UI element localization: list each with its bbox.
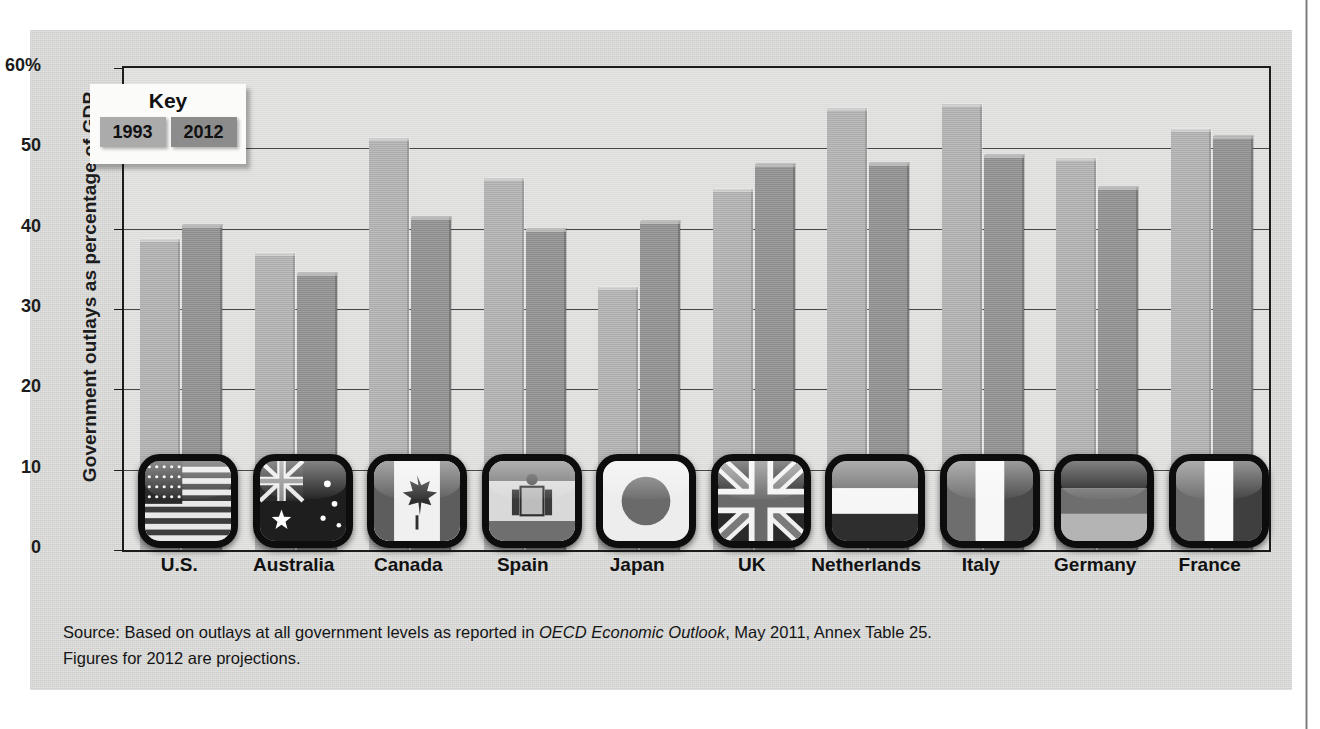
flag-united-kingdom-icon — [711, 454, 811, 548]
flag-image — [489, 461, 575, 541]
source-publication: OECD Economic Outlook — [539, 623, 725, 641]
bar-highlight — [297, 273, 337, 276]
bar-highlight — [369, 138, 409, 141]
flag-germany-icon — [1054, 454, 1154, 548]
y-tick-mark-10 — [114, 470, 124, 471]
x-tick-label-france: France — [1120, 554, 1300, 576]
bar-highlight — [182, 225, 222, 228]
flag-image — [145, 461, 231, 541]
gridline-30 — [124, 309, 1269, 310]
flag-image — [1176, 461, 1262, 541]
bar-highlight — [140, 239, 180, 242]
source-suffix: , May 2011, Annex Table 25. — [725, 623, 932, 641]
bar-highlight — [869, 163, 909, 166]
flag-italy-icon — [940, 454, 1040, 548]
exhibit-panel: Government outlays as percentage of GDP … — [30, 30, 1292, 690]
bar-highlight — [484, 178, 524, 181]
bar-highlight — [713, 189, 753, 192]
gridline-20 — [124, 389, 1269, 390]
source-line-2: Figures for 2012 are projections. — [63, 646, 1213, 672]
bar-highlight — [1056, 158, 1096, 161]
bar-highlight — [411, 217, 451, 220]
gridline-40 — [124, 229, 1269, 230]
legend-swatches: 19932012 — [90, 117, 246, 147]
y-tick-label-0: 0 — [0, 537, 41, 558]
source-line-1: Source: Based on outlays at all governme… — [63, 620, 1213, 646]
legend-swatch-2012: 2012 — [171, 117, 237, 147]
bar-highlight — [1098, 187, 1138, 190]
bar-highlight — [827, 108, 867, 111]
flag-image — [718, 461, 804, 541]
legend-swatch-1993: 1993 — [100, 117, 166, 147]
y-tick-label-60: 60% — [0, 55, 41, 76]
bar-highlight — [1171, 129, 1211, 132]
plot-area — [122, 66, 1271, 552]
y-tick-mark-40 — [114, 229, 124, 230]
flag-image — [1061, 461, 1147, 541]
source-prefix: Source: Based on outlays at all governme… — [63, 623, 539, 641]
y-tick-mark-30 — [114, 309, 124, 310]
flag-image — [603, 461, 689, 541]
figure-container: Government outlays as percentage of GDP … — [0, 0, 1320, 729]
flag-image — [260, 461, 346, 541]
flag-netherlands-icon — [825, 454, 925, 548]
flag-japan-icon — [596, 454, 696, 548]
flag-france-icon — [1169, 454, 1269, 548]
y-tick-mark-20 — [114, 389, 124, 390]
y-tick-label-30: 30 — [0, 296, 41, 317]
gridline-50 — [124, 148, 1269, 149]
y-tick-label-40: 40 — [0, 216, 41, 237]
flag-image — [374, 461, 460, 541]
bar-highlight — [526, 229, 566, 232]
y-tick-label-50: 50 — [0, 135, 41, 156]
y-tick-mark-0 — [114, 550, 124, 551]
bar-highlight — [255, 253, 295, 256]
chart-legend: Key 19932012 — [90, 84, 246, 164]
bar-highlight — [942, 104, 982, 107]
bar-highlight — [1213, 136, 1253, 139]
page-edge-rule — [1305, 0, 1308, 729]
flag-spain-icon — [482, 454, 582, 548]
flag-united-states-icon — [138, 454, 238, 548]
y-tick-label-20: 20 — [0, 376, 41, 397]
bar-highlight — [598, 287, 638, 290]
y-tick-label-10: 10 — [0, 457, 41, 478]
bar-highlight — [755, 164, 795, 167]
bar-highlight — [984, 155, 1024, 158]
flag-australia-icon — [253, 454, 353, 548]
legend-title: Key — [90, 89, 246, 113]
flag-canada-icon — [367, 454, 467, 548]
flag-image — [947, 461, 1033, 541]
source-note: Source: Based on outlays at all governme… — [63, 620, 1213, 671]
y-tick-mark-60 — [114, 68, 124, 69]
bar-highlight — [640, 221, 680, 224]
flag-image — [832, 461, 918, 541]
